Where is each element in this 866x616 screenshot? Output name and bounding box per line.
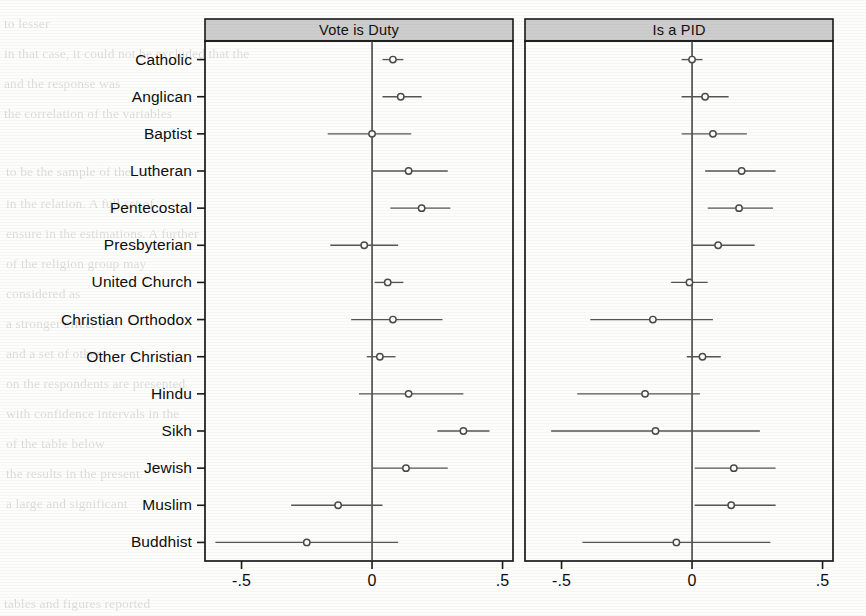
y-axis-label-sikh: Sikh (161, 422, 192, 440)
panel-frame-is-a-pid (525, 41, 833, 561)
y-axis-label-pentecostal: Pentecostal (110, 199, 192, 217)
point-estimate-marker (673, 539, 679, 545)
y-axis-label-united-church: United Church (92, 273, 192, 291)
y-axis-label-hindu: Hindu (151, 385, 192, 403)
estimate-vote-is-duty-muslim (291, 502, 382, 508)
estimate-vote-is-duty-christian-orthodox (351, 316, 442, 322)
point-estimate-marker (460, 428, 466, 434)
point-estimate-marker (686, 279, 692, 285)
estimate-vote-is-duty-catholic (382, 56, 403, 62)
y-axis-label-christian-orthodox: Christian Orthodox (61, 311, 192, 329)
y-axis-label-presbyterian: Presbyterian (104, 236, 192, 254)
y-axis-label-catholic: Catholic (135, 51, 192, 69)
point-estimate-marker (390, 316, 396, 322)
point-estimate-marker (361, 242, 367, 248)
point-estimate-marker (715, 242, 721, 248)
point-estimate-marker (385, 279, 391, 285)
point-estimate-marker (728, 502, 734, 508)
estimate-vote-is-duty-united-church (375, 279, 404, 285)
plot-canvas (0, 0, 866, 616)
panel-frame-vote-is-duty (205, 41, 513, 561)
estimate-is-a-pid-jewish (695, 465, 776, 471)
y-axis-label-muslim: Muslim (142, 496, 192, 514)
point-estimate-marker (335, 502, 341, 508)
estimate-vote-is-duty-lutheran (372, 168, 448, 174)
estimate-is-a-pid-catholic (682, 56, 703, 62)
point-estimate-marker (689, 56, 695, 62)
point-estimate-marker (702, 94, 708, 100)
estimate-is-a-pid-muslim (695, 502, 776, 508)
panel-title-is-a-pid: Is a PID (652, 22, 705, 38)
estimate-is-a-pid-anglican (682, 94, 729, 100)
point-estimate-marker (369, 131, 375, 137)
estimate-is-a-pid-hindu (577, 391, 700, 397)
point-estimate-marker (650, 316, 656, 322)
coefficient-plot-figure: -.50.5Vote is Duty-.50.5Is a PIDCatholic… (0, 0, 866, 616)
estimate-is-a-pid-sikh (551, 428, 760, 434)
estimate-vote-is-duty-hindu (359, 391, 463, 397)
point-estimate-marker (403, 465, 409, 471)
point-estimate-marker (738, 168, 744, 174)
y-axis-label-lutheran: Lutheran (130, 162, 192, 180)
estimate-vote-is-duty-buddhist (215, 539, 398, 545)
estimate-vote-is-duty-sikh (437, 428, 489, 434)
estimate-vote-is-duty-baptist (328, 131, 412, 137)
point-estimate-marker (418, 205, 424, 211)
point-estimate-marker (377, 354, 383, 360)
estimate-is-a-pid-buddhist (582, 539, 770, 545)
x-tick-label--.5: -.5 (552, 572, 571, 590)
point-estimate-marker (642, 391, 648, 397)
x-tick-label-.5: .5 (816, 572, 830, 590)
estimate-is-a-pid-united-church (671, 279, 708, 285)
point-estimate-marker (405, 391, 411, 397)
y-axis-label-buddhist: Buddhist (131, 533, 192, 551)
point-estimate-marker (699, 354, 705, 360)
estimate-is-a-pid-presbyterian (692, 242, 755, 248)
point-estimate-marker (390, 56, 396, 62)
x-tick-label-0: 0 (687, 572, 696, 590)
point-estimate-marker (736, 205, 742, 211)
x-tick-label-.5: .5 (496, 572, 510, 590)
y-axis-label-other-christian: Other Christian (86, 348, 192, 366)
point-estimate-marker (652, 428, 658, 434)
y-axis-label-anglican: Anglican (132, 88, 192, 106)
point-estimate-marker (405, 168, 411, 174)
panel-title-vote-is-duty: Vote is Duty (319, 22, 399, 38)
x-tick-label--.5: -.5 (232, 572, 251, 590)
y-axis-label-jewish: Jewish (144, 459, 192, 477)
estimate-vote-is-duty-presbyterian (330, 242, 398, 248)
estimate-is-a-pid-lutheran (705, 168, 775, 174)
point-estimate-marker (398, 94, 404, 100)
point-estimate-marker (710, 131, 716, 137)
estimate-is-a-pid-christian-orthodox (590, 316, 713, 322)
estimate-vote-is-duty-jewish (372, 465, 448, 471)
estimate-vote-is-duty-pentecostal (390, 205, 450, 211)
estimate-vote-is-duty-anglican (382, 94, 421, 100)
estimate-vote-is-duty-other-christian (367, 354, 396, 360)
point-estimate-marker (304, 539, 310, 545)
estimate-is-a-pid-pentecostal (708, 205, 773, 211)
point-estimate-marker (731, 465, 737, 471)
x-tick-label-0: 0 (367, 572, 376, 590)
y-axis-label-baptist: Baptist (144, 125, 192, 143)
